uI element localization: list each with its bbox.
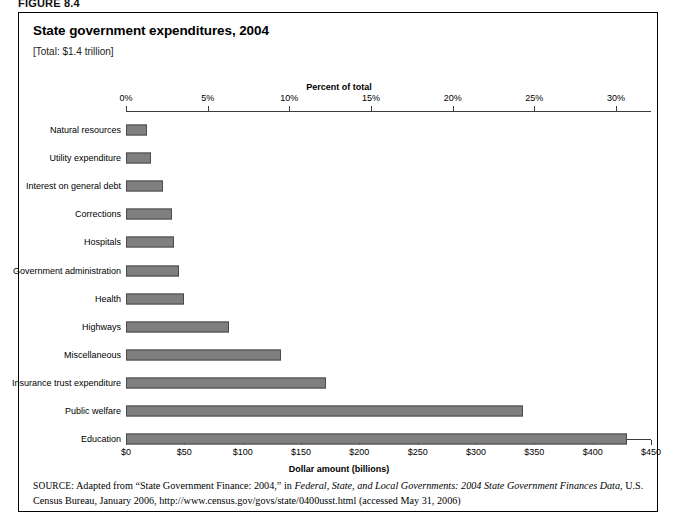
top-tick-label: 20% [444,93,462,103]
bottom-tick-label: $300 [466,447,486,457]
category-label: Miscellaneous [64,350,121,360]
bottom-tick-label: $100 [233,447,253,457]
category-label: Health [95,294,121,304]
top-tick-label: 0% [119,93,132,103]
source-note: SOURCE: Adapted from “State Government F… [33,479,647,507]
bar [126,406,523,417]
top-tick-mark [534,106,535,111]
bottom-tick-mark [651,440,652,445]
top-tick-mark [126,106,127,111]
category-label: Public welfare [65,406,121,416]
bottom-tick-label: $0 [121,447,131,457]
bar [126,181,163,192]
top-tick-mark [289,106,290,111]
top-tick-mark [616,106,617,111]
figure-label: FIGURE 8.4 [18,0,80,9]
top-tick-mark [208,106,209,111]
source-text-italic: Federal, State, and Local Governments: 2… [294,480,620,491]
category-label: Utility expenditure [49,153,121,163]
bar [126,209,172,220]
source-kicker: SOURCE: [33,481,74,491]
bar [126,153,151,164]
bar [126,237,174,248]
figure-panel: State government expenditures, 2004 [Tot… [18,12,658,512]
chart-plot-area: Percent of total Dollar amount (billions… [19,13,659,513]
top-tick-label: 30% [607,93,625,103]
bottom-tick-label: $350 [524,447,544,457]
bottom-tick-label: $200 [349,447,369,457]
category-label: Education [81,434,121,444]
category-label: Hospitals [84,237,121,247]
bar [126,321,229,332]
top-tick-label: 25% [525,93,543,103]
bottom-tick-label: $150 [291,447,311,457]
source-text-part1: Adapted from “State Government Finance: … [74,480,294,491]
bottom-axis-title: Dollar amount (billions) [19,464,659,474]
category-label: Highways [82,322,121,332]
top-tick-mark [371,106,372,111]
bottom-tick-label: $50 [177,447,192,457]
bar [126,349,281,360]
top-tick-label: 15% [362,93,380,103]
top-tick-mark [453,106,454,111]
bottom-tick-label: $400 [583,447,603,457]
bar [126,293,184,304]
bottom-tick-label: $250 [408,447,428,457]
bar [126,125,147,136]
bar [126,377,326,388]
category-label: Natural resources [50,125,121,135]
bottom-tick-label: $450 [641,447,661,457]
category-label: Insurance trust expenditure [12,378,121,388]
top-axis-line [126,111,651,112]
bar [126,434,627,445]
category-label: Interest on general debt [26,181,121,191]
top-tick-label: 10% [280,93,298,103]
top-axis-title: Percent of total [19,82,659,92]
top-tick-label: 5% [201,93,214,103]
category-label: Government administration [13,266,121,276]
category-label: Corrections [75,209,121,219]
bar [126,265,179,276]
